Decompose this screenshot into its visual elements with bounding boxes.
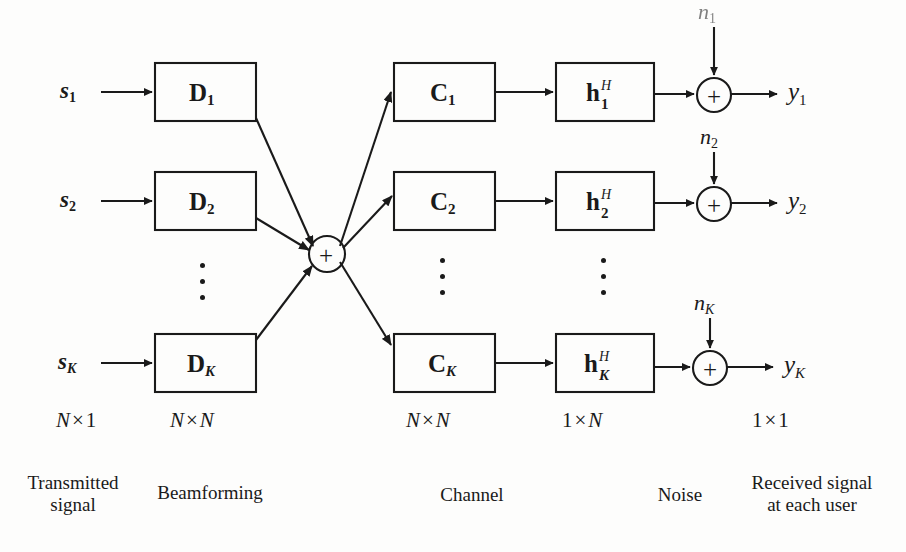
output-label-y2: y2	[788, 188, 807, 217]
caption-beamforming: Beamforming	[140, 482, 280, 504]
input-sub-s2: 2	[69, 199, 76, 214]
dim-cols-4: 1	[778, 408, 789, 432]
block-base-d1: D	[189, 79, 207, 106]
block-label-c2: C2	[430, 189, 456, 217]
block-base-d2: D	[189, 188, 207, 215]
vertical-ellipsis-icon-channel	[440, 258, 446, 306]
block-label-h2: hH2	[586, 189, 600, 214]
dimension-label-received: 1×1	[752, 410, 789, 431]
block-sub-dk: K	[205, 363, 215, 379]
dim-cols-0: 1	[86, 408, 97, 432]
output-base-y1: y	[788, 78, 799, 105]
figure-canvas: + + + + s1 s2 sK D1 D2 DK C1 C2 CK hH1 h…	[0, 0, 906, 552]
dim-cols-1: N	[200, 408, 214, 432]
block-label-h1: hH1	[586, 80, 600, 105]
noise-sub-nk: K	[705, 302, 714, 317]
block-label-dk: DK	[187, 351, 215, 379]
caption-line1-3: Noise	[640, 484, 720, 506]
caption-line1-0: Transmitted	[8, 472, 138, 494]
block-base-dk: D	[187, 350, 205, 377]
dim-rows-0: N	[56, 408, 70, 432]
caption-transmitted-signal: Transmitted signal	[8, 472, 138, 516]
output-label-yk: yK	[784, 352, 805, 381]
block-sub-hk: K	[599, 368, 609, 383]
dim-cols-2: N	[436, 408, 450, 432]
block-base-hk: h	[584, 350, 598, 377]
output-sub-y1: 1	[799, 92, 807, 108]
dim-rows-1: N	[170, 408, 184, 432]
input-base-s1: s	[60, 78, 69, 103]
caption-channel: Channel	[417, 484, 527, 506]
block-sub-h2: 2	[601, 206, 609, 221]
block-label-hk: hHK	[584, 351, 598, 376]
output-base-y2: y	[788, 187, 799, 214]
block-sup-hk: H	[599, 350, 609, 364]
vertical-ellipsis-icon-beamforming	[200, 263, 206, 311]
caption-received-signal: Received signal at each user	[726, 472, 898, 516]
block-base-c2: C	[430, 188, 448, 215]
input-base-sk: s	[58, 349, 67, 374]
dim-rows-4: 1	[752, 408, 763, 432]
noise-base-nk: n	[694, 290, 705, 315]
block-sub-d2: 2	[207, 201, 215, 217]
caption-line1-1: Beamforming	[140, 482, 280, 504]
block-label-d2: D2	[189, 189, 215, 217]
output-base-yk: y	[784, 351, 795, 378]
noise-label-nk: nK	[694, 292, 714, 317]
noise-base-n2: n	[700, 124, 711, 149]
block-base-h1: h	[586, 79, 600, 106]
times-symbol-3: ×	[575, 408, 587, 432]
dimension-label-channel: N×N	[406, 410, 450, 431]
times-symbol-4: ×	[765, 408, 777, 432]
block-sub-d1: 1	[207, 92, 215, 108]
noise-sub-n1: 1	[709, 11, 716, 26]
times-symbol-0: ×	[72, 408, 84, 432]
block-sub-c1: 1	[448, 92, 456, 108]
block-base-ck: C	[428, 350, 446, 377]
summer-plus-1: +	[707, 84, 721, 109]
caption-line2-4: at each user	[726, 494, 898, 516]
block-sub-h1: 1	[601, 97, 609, 112]
arrow-d1-to-summer	[256, 118, 313, 246]
block-sup-h2: H	[601, 188, 611, 202]
block-sup-h1: H	[601, 79, 611, 93]
block-base-c1: C	[430, 79, 448, 106]
dimension-label-beamforming: N×N	[170, 410, 214, 431]
dimension-label-channel-vector: 1×N	[562, 410, 602, 431]
dim-cols-3: N	[588, 408, 602, 432]
caption-noise: Noise	[640, 484, 720, 506]
times-symbol-1: ×	[186, 408, 198, 432]
caption-line1-4: Received signal	[726, 472, 898, 494]
times-symbol-2: ×	[422, 408, 434, 432]
block-label-c1: C1	[430, 80, 456, 108]
caption-line1-2: Channel	[417, 484, 527, 506]
input-base-s2: s	[60, 187, 69, 212]
output-sub-y2: 2	[799, 201, 807, 217]
output-label-y1: y1	[788, 79, 807, 108]
block-label-ck: CK	[428, 351, 456, 379]
summer-plus-2: +	[707, 193, 721, 218]
vertical-ellipsis-icon-channel-vector	[601, 258, 607, 306]
arrow-dk-to-summer	[256, 266, 312, 340]
input-label-sk: sK	[58, 350, 76, 376]
caption-line2-0: signal	[8, 494, 138, 516]
block-sub-c2: 2	[448, 201, 456, 217]
dimension-label-transmitted: N×1	[56, 410, 96, 431]
input-label-s2: s2	[60, 188, 76, 214]
input-label-s1: s1	[60, 79, 76, 105]
block-label-d1: D1	[189, 80, 215, 108]
input-sub-sk: K	[67, 361, 76, 376]
noise-label-n2: n2	[700, 126, 718, 151]
arrow-summer-to-c2	[343, 196, 392, 248]
block-base-h2: h	[586, 188, 600, 215]
input-sub-s1: 1	[69, 90, 76, 105]
arrow-summer-to-ck	[340, 262, 391, 345]
arrow-d2-to-summer	[256, 218, 309, 250]
noise-base-n1: n	[698, 0, 709, 24]
block-sub-ck: K	[446, 363, 456, 379]
dim-rows-2: N	[406, 408, 420, 432]
noise-sub-n2: 2	[711, 136, 718, 151]
central-summer-plus: +	[319, 243, 333, 268]
summer-plus-k: +	[703, 357, 717, 382]
noise-label-n1: n1	[698, 1, 716, 26]
